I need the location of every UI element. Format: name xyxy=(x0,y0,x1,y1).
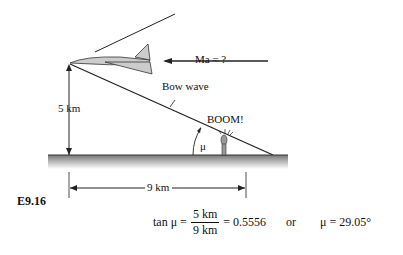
eq-final: μ = 29.05° xyxy=(320,215,371,230)
eq-or: or xyxy=(286,215,296,230)
bow-wave-line xyxy=(70,64,273,155)
ground xyxy=(48,155,288,169)
height-label: 5 km xyxy=(58,102,80,114)
upper-wave-line xyxy=(95,14,175,52)
person-icon xyxy=(219,129,233,155)
equation: tan μ = 5 km 9 km = 0.5556 or μ = 29.05° xyxy=(153,207,371,238)
distance-label: 9 km xyxy=(147,181,169,193)
bow-wave-label: Bow wave xyxy=(162,80,209,92)
eq-lhs: tan μ = xyxy=(153,215,187,230)
eq-fraction: 5 km 9 km xyxy=(191,207,219,238)
boom-label: BOOM! xyxy=(207,113,244,125)
figure-label: E9.16 xyxy=(17,194,46,209)
angle-label: μ xyxy=(200,140,206,152)
mach-label: Ma = ? xyxy=(195,53,226,65)
eq-result: = 0.5556 xyxy=(223,215,266,230)
